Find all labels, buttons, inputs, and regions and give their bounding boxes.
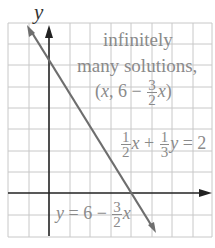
- fraction: 32: [147, 78, 157, 108]
- fraction: 13: [160, 130, 170, 160]
- y-axis-arrow-icon: [45, 25, 53, 38]
- annotation-line1: infinitely: [103, 30, 173, 49]
- x-axis-arrow-icon: [199, 189, 212, 197]
- equation-1: 12x + 13y = 2: [120, 130, 206, 160]
- y-axis-label: y: [34, 0, 43, 25]
- annotation-line2: many solutions,: [77, 56, 197, 75]
- annotation-point: (x, 6 − 32x): [95, 78, 172, 108]
- x-axis: [8, 189, 212, 197]
- fraction: 32: [112, 200, 122, 230]
- fraction: 12: [121, 130, 131, 160]
- equation-2: y = 6 − 32x: [56, 200, 131, 230]
